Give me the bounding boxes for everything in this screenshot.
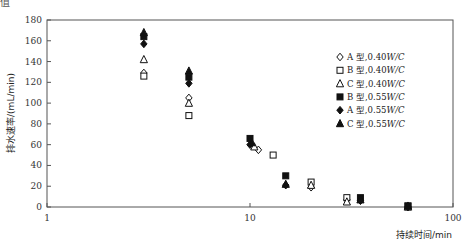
square-open-icon [270, 152, 276, 158]
legend-item: A 型,0.55W/C [337, 105, 405, 115]
y-tick-label: 0 [36, 202, 42, 212]
x-tick-label: 10 [244, 213, 256, 223]
y-tick-label: 100 [25, 98, 42, 108]
diamond-filled-icon [186, 80, 192, 88]
legend-label: C 型,0.55W/C [347, 119, 405, 129]
legend-label: C 型,0.40W/C [347, 79, 405, 89]
diamond-filled-legend-icon [337, 106, 343, 114]
legend-item: C 型,0.55W/C [336, 119, 405, 129]
diamond-filled-icon [141, 40, 147, 48]
legend-label: A 型,0.40W/C [346, 52, 405, 62]
legend-item: A 型,0.40W/C [337, 52, 405, 62]
y-axis-title: 排水速率/(mL/min) [5, 73, 16, 153]
square-open-icon [186, 113, 192, 119]
square-filled-icon [283, 173, 289, 179]
legend-item: C 型,0.40W/C [336, 79, 405, 89]
triangle-open-icon [185, 99, 192, 106]
y-tick-label: 60 [31, 140, 43, 150]
legend-item: B 型,0.40W/C [337, 65, 405, 75]
y-tick-label: 20 [31, 181, 43, 191]
square-filled-legend-icon [337, 94, 343, 100]
x-tick-label: 100 [444, 213, 461, 223]
legend: A 型,0.40W/CB 型,0.40W/CC 型,0.40W/CB 型,0.5… [336, 52, 405, 129]
y-tick-label: 40 [31, 160, 43, 170]
y-tick-label: 80 [31, 119, 43, 129]
legend-item: B 型,0.55W/C [337, 92, 405, 102]
legend-label: A 型,0.55W/C [346, 105, 405, 115]
triangle-filled-icon [140, 28, 147, 35]
y-tick-label: 180 [25, 15, 42, 25]
square-open-icon [141, 73, 147, 79]
x-tick-label: 1 [44, 213, 50, 223]
triangle-filled-legend-icon [336, 120, 343, 127]
triangle-filled-icon [185, 67, 192, 74]
legend-label: B 型,0.55W/C [347, 92, 405, 102]
triangle-open-legend-icon [336, 80, 343, 87]
square-open-legend-icon [337, 67, 343, 73]
scatter-chart: 020406080100120140160180110100 A 型,0.40W… [0, 0, 473, 250]
y-tick-label: 160 [25, 36, 42, 46]
series [141, 69, 412, 211]
y-tick-label: 140 [25, 57, 42, 67]
x-axis-title: 持续时间/min [396, 229, 452, 240]
y-tick-label: 120 [25, 77, 42, 87]
triangle-open-icon [140, 55, 147, 62]
diamond-open-legend-icon [337, 53, 343, 61]
legend-label: B 型,0.40W/C [347, 65, 405, 75]
